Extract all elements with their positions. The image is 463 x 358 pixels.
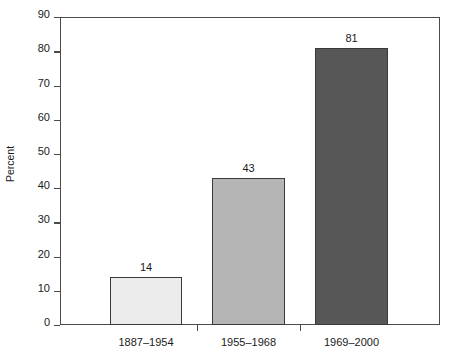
bar-value-label: 43 <box>212 163 285 174</box>
x-axis-label-1887-1954: 1887–1954 <box>96 336 196 348</box>
bar-value-label: 81 <box>315 33 388 44</box>
bar-1887-1954 <box>110 277 182 325</box>
bar-chart: 0 10 20 30 40 50 60 70 <box>0 0 463 358</box>
bar-1955-1968 <box>212 178 285 325</box>
x-axis-label-1955-1968: 1955–1968 <box>199 336 299 348</box>
bar-1969-2000 <box>315 48 388 325</box>
bar-value-label: 14 <box>110 262 182 273</box>
bars-layer: 14 43 81 <box>0 0 463 358</box>
x-tick-mark <box>197 325 198 331</box>
x-axis-label-1969-2000: 1969–2000 <box>302 336 402 348</box>
x-tick-mark <box>300 325 301 331</box>
